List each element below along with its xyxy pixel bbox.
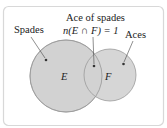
set-e-label: E [60, 71, 68, 82]
spades-pointer-dot [45, 59, 48, 62]
intersection-callout-formula: n(E ∩ F) = 1 [63, 25, 119, 37]
venn-diagram: E F Spades Aces Ace of spades n(E ∩ F) =… [0, 0, 167, 128]
intersection-callout-title: Ace of spades [66, 12, 125, 23]
spades-callout: Spades [14, 24, 44, 35]
aces-pointer-dot [122, 63, 125, 66]
set-f-label: F [104, 71, 112, 82]
aces-callout: Aces [125, 29, 146, 40]
intersection-pointer-dot [93, 65, 96, 68]
